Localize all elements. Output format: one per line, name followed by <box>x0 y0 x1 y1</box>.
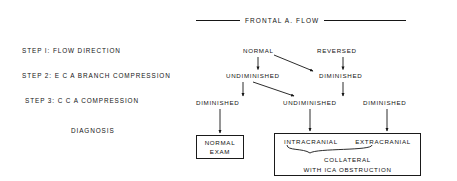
connector-layer <box>0 0 457 181</box>
edge-normal-to-diminished <box>274 55 313 71</box>
frontal-artery-flow-diagram: FRONTAL A. FLOW STEP I: FLOW DIRECTION S… <box>0 0 457 181</box>
collateral-brace <box>287 145 372 153</box>
edge-undiminished-to-undiminished-mid <box>253 82 294 96</box>
